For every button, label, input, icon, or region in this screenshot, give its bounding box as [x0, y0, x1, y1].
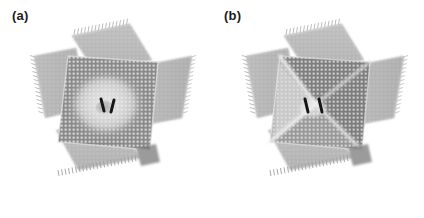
membrane-sheet-a	[58, 56, 158, 150]
shadow-patch-a	[136, 144, 160, 166]
panel-a-label: (a)	[12, 8, 29, 23]
panel-a-scene	[0, 0, 212, 218]
shadow-patch-b	[348, 144, 372, 166]
panel-a: (a)	[0, 0, 212, 218]
panel-b: (b)	[212, 0, 424, 218]
figure-root: (a)	[0, 0, 424, 218]
panel-b-label: (b)	[224, 8, 241, 23]
panel-b-scene	[212, 0, 424, 218]
